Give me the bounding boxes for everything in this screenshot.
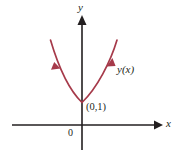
y-axis-arrowhead-icon [78,15,87,25]
origin-label: 0 [68,128,73,138]
solution-curve [51,40,118,103]
curve-function-label: y(x) [117,64,134,75]
y-axis-label: y [78,2,83,13]
y-intercept-point-label: (0,1) [86,102,106,113]
coordinate-plot [0,0,180,153]
x-axis-arrowhead-icon [154,121,163,130]
parabola-path [51,40,118,103]
x-axis-label: x [166,118,171,129]
x-axis [12,121,163,130]
graph-figure: y x 0 (0,1) y(x) [0,0,180,153]
y-axis [78,15,87,150]
